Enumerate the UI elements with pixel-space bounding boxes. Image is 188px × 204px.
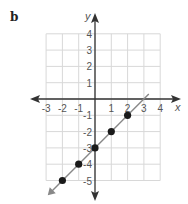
x-tick-label: -3 (42, 103, 51, 114)
x-axis-label: x (174, 101, 181, 113)
y-axis-label: y (84, 10, 92, 22)
coordinate-plane: xy -3-2-112344321-1-2-3-4-5 (0, 0, 188, 204)
data-point (108, 128, 115, 135)
data-point (59, 177, 66, 184)
x-tick-label: 4 (157, 103, 163, 114)
y-tick-label: 3 (86, 45, 92, 56)
x-tick-label: 1 (109, 103, 115, 114)
y-tick-label: 4 (86, 29, 92, 40)
y-tick-label: 1 (86, 78, 92, 89)
y-tick-label: 2 (86, 61, 92, 72)
y-tick-label: -1 (83, 110, 92, 121)
tick-labels: -3-2-112344321-1-2-3-4-5 (42, 29, 164, 187)
data-point (75, 161, 82, 168)
x-tick-label: -2 (58, 103, 67, 114)
y-tick-label: -4 (83, 159, 92, 170)
y-tick-label: -2 (83, 127, 92, 138)
y-tick-label: -5 (83, 176, 92, 187)
x-tick-label: 3 (141, 103, 147, 114)
data-point (124, 112, 131, 119)
data-point (91, 144, 98, 151)
